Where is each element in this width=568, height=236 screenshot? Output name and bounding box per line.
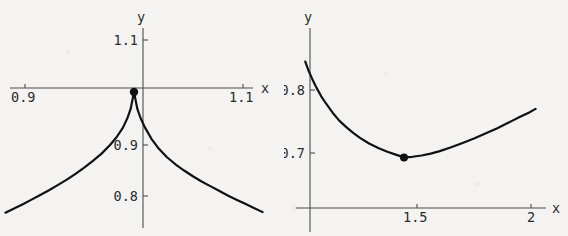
cusp-point-marker <box>130 88 138 96</box>
figure-canvas: 0.9 1.1 1.1 0.9 0.8 x y 1.5 2 0.8 0.7 x … <box>0 0 568 236</box>
left-ytick-label-0.9: 0.9 <box>114 137 138 153</box>
right-xtick-label-1.5: 1.5 <box>403 209 427 225</box>
minimum-point-marker <box>400 153 408 161</box>
right-xaxis-label: x <box>552 200 560 216</box>
left-plot: 0.9 1.1 1.1 0.9 0.8 x y <box>0 0 284 236</box>
left-yaxis-label: y <box>137 9 145 25</box>
right-plot: 1.5 2 0.8 0.7 x y <box>284 0 568 236</box>
left-ytick-label-1.1: 1.1 <box>114 32 138 48</box>
right-ytick-label-0.7: 0.7 <box>284 145 305 161</box>
right-xtick-label-2: 2 <box>527 209 535 225</box>
left-plot-svg: 0.9 1.1 1.1 0.9 0.8 x y <box>0 0 284 236</box>
left-xtick-label-0: 0.9 <box>11 89 35 105</box>
left-xtick-label-1: 1.1 <box>229 89 253 105</box>
left-ytick-label-0.8: 0.8 <box>114 188 138 204</box>
right-ytick-label-0.8: 0.8 <box>284 82 305 98</box>
right-yaxis-label: y <box>304 9 312 25</box>
left-xaxis-label: x <box>261 80 269 96</box>
right-plot-svg: 1.5 2 0.8 0.7 x y <box>284 0 568 236</box>
right-curve-path <box>305 62 535 158</box>
